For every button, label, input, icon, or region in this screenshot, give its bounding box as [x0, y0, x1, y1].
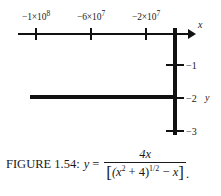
caption-equals: =: [92, 158, 99, 171]
y-axis-line: [173, 28, 177, 135]
formula-fraction: 4x[(x2 + 4)1/2 − x]: [104, 148, 186, 181]
x-tick-label: −6×107: [77, 12, 105, 22]
y-axis-label: y: [205, 92, 209, 103]
x-tick-mark: [35, 28, 37, 40]
denominator-minus: −: [159, 165, 172, 179]
x-tick-mark: [90, 28, 92, 40]
figure-caption: FIGURE 1.54:y=4x[(x2 + 4)1/2 − x].: [6, 148, 221, 181]
x-tick-label-text: −6×10: [77, 12, 101, 22]
y-tick-mark: [166, 64, 184, 66]
denominator-mid: + 4): [125, 165, 149, 179]
figure-container: · · · · x −1×108 −6×107 −2×107 y −1 −2 −…: [0, 0, 221, 196]
denominator-close-bracket: ]: [178, 163, 184, 182]
y-tick-label: −3: [186, 126, 197, 137]
x-tick-label-exponent: 7: [101, 9, 105, 18]
caption-period: .: [186, 168, 189, 181]
y-tick-label: −2: [186, 93, 197, 104]
x-axis-label: x: [198, 19, 202, 30]
x-tick-label: −1×108: [22, 12, 50, 22]
y-tick-label: −1: [186, 60, 197, 71]
caption-variable: y: [84, 158, 90, 171]
x-axis-arrow-icon: [188, 29, 196, 39]
formula-numerator: 4x: [104, 148, 186, 162]
x-tick-label-text: −1×10: [22, 12, 46, 22]
x-tick-label-exponent: 7: [156, 9, 160, 18]
denominator-power: 1/2: [149, 164, 159, 173]
x-tick-label: −2×107: [132, 12, 160, 22]
y-tick-mark: [166, 130, 184, 132]
formula-denominator: [(x2 + 4)1/2 − x]: [104, 163, 186, 181]
plot-curve: [30, 95, 176, 99]
caption-label: FIGURE 1.54:: [6, 158, 80, 171]
x-tick-label-exponent: 8: [46, 9, 50, 18]
x-tick-label-text: −2×10: [132, 12, 156, 22]
x-tick-mark: [145, 28, 147, 40]
plot-area: x −1×108 −6×107 −2×107 y −1 −2 −3: [0, 0, 221, 142]
x-axis-line: [18, 33, 190, 35]
denominator-base: (x: [112, 165, 122, 179]
